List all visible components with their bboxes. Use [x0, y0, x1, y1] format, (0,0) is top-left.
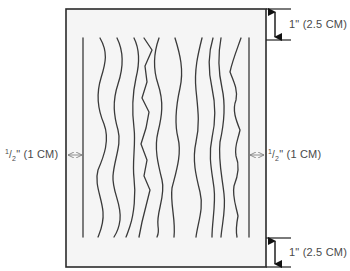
right-margin-fraction: 1/2	[268, 149, 279, 160]
left-margin-label: 1/2" (1 CM)	[5, 148, 58, 160]
left-margin-fraction: 1/2	[5, 149, 16, 160]
wavy-lines-diagram: 1" (2.5 CM) 1" (2.5 CM) 1/2" (1 CM) 1/2"…	[0, 0, 350, 271]
left-fraction-numerator: 1	[5, 148, 9, 155]
diagram-canvas	[0, 0, 350, 271]
top-margin-label-text: 1" (2.5 CM)	[289, 18, 347, 30]
bottom-margin-label-text: 1" (2.5 CM)	[289, 246, 347, 258]
bottom-margin-marker	[266, 238, 291, 267]
right-fraction-numerator: 1	[268, 148, 272, 155]
left-margin-label-text: " (1 CM)	[16, 148, 58, 160]
top-margin-label: 1" (2.5 CM)	[289, 18, 347, 30]
right-margin-label: 1/2" (1 CM)	[268, 148, 321, 160]
bottom-margin-label: 1" (2.5 CM)	[289, 246, 347, 258]
top-margin-marker	[266, 9, 291, 40]
right-margin-label-text: " (1 CM)	[279, 148, 321, 160]
